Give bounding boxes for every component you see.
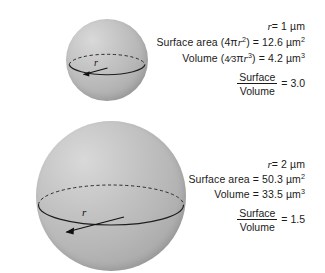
ratio-fraction-small: Surface Volume xyxy=(237,71,277,97)
equator-back-dashed-large xyxy=(39,185,184,205)
sphere-large-overlay: r xyxy=(36,121,186,271)
stats-large-sphere: r= 2 µm Surface area = 50.3 µm2 Volume =… xyxy=(188,157,305,233)
ratio-numerator-small: Surface xyxy=(237,71,277,84)
volume-line-large: Volume = 33.5 µm3 xyxy=(188,188,305,202)
sphere-large: r xyxy=(36,121,186,271)
volume-unit-exponent-small: 3 xyxy=(301,50,305,59)
sphere-small: r xyxy=(66,19,148,101)
ratio-numerator-large: Surface xyxy=(237,207,277,220)
surface-area-prefix-small: Surface area (4π xyxy=(156,36,237,48)
ratio-value-small: = 3.0 xyxy=(281,77,305,91)
ratio-row-small: Surface Volume = 3.0 xyxy=(156,71,305,97)
surface-area-line-small: Surface area (4πr2) = 12.6 µm2 xyxy=(156,35,305,50)
surface-area-unit-exponent-large: 2 xyxy=(301,171,305,180)
radius-eq-small: = 1 µm xyxy=(272,20,305,32)
volume-suffix-small: ) = 4.2 µm xyxy=(252,52,301,64)
radius-line-large: r= 2 µm xyxy=(188,157,305,172)
sphere-small-overlay: r xyxy=(66,19,148,101)
surface-area-prefix-large: Surface area = 50.3 µm xyxy=(188,173,300,185)
ratio-denominator-small: Volume xyxy=(238,84,277,97)
volume-prefix-small: Volume ( xyxy=(182,52,224,64)
ratio-row-large: Surface Volume = 1.5 xyxy=(188,207,305,233)
radius-line-small: r= 1 µm xyxy=(156,19,305,34)
equator-front-solid xyxy=(69,65,145,75)
ratio-value-large: = 1.5 xyxy=(281,213,305,227)
radius-label-small: r xyxy=(94,57,98,68)
surface-area-suffix-small: ) = 12.6 µm xyxy=(246,36,301,48)
volume-line-small: Volume (4⁄3πr3) = 4.2 µm3 xyxy=(156,51,305,66)
figure-canvas: r r= 1 µm Surface area (4πr2) = 12.6 µm2… xyxy=(0,0,325,273)
surface-area-line-large: Surface area = 50.3 µm2 xyxy=(188,173,305,187)
radius-label-large: r xyxy=(82,206,87,218)
volume-prefix-large: Volume = 33.5 µm xyxy=(214,188,301,200)
equator-back-dashed xyxy=(69,54,145,64)
radius-arrow-head-large xyxy=(66,228,75,235)
stats-small-sphere: r= 1 µm Surface area (4πr2) = 12.6 µm2 V… xyxy=(156,19,305,97)
radius-eq-large: = 2 µm xyxy=(272,158,305,170)
surface-area-unit-exponent-small: 2 xyxy=(301,34,305,43)
ratio-denominator-large: Volume xyxy=(238,220,277,233)
ratio-fraction-large: Surface Volume xyxy=(237,207,277,233)
equator-front-solid-large xyxy=(39,205,184,225)
volume-fraction-small: 4⁄3 xyxy=(224,54,236,64)
volume-unit-exponent-large: 3 xyxy=(301,186,305,195)
volume-pi-small: π xyxy=(236,52,243,64)
